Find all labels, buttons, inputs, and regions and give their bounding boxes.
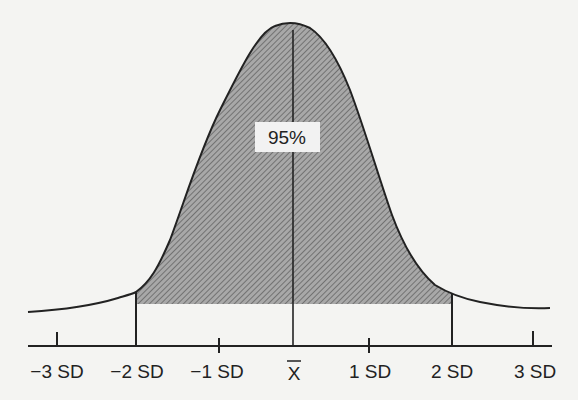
normal-distribution-chart: 95% −3 SD −2 SD −1 SD X 1 SD 2 SD 3 SD — [0, 0, 578, 400]
percent-label: 95% — [268, 127, 306, 148]
tick-label-pos3: 3 SD — [514, 361, 556, 382]
tick-label-pos2: 2 SD — [431, 361, 473, 382]
shaded-95-region — [136, 23, 452, 304]
tick-label-pos1: 1 SD — [349, 361, 391, 382]
tick-label-neg2: −2 SD — [110, 361, 163, 382]
tick-label-neg3: −3 SD — [30, 361, 83, 382]
tick-label-mean: X — [288, 363, 301, 384]
tick-label-neg1: −1 SD — [190, 361, 243, 382]
